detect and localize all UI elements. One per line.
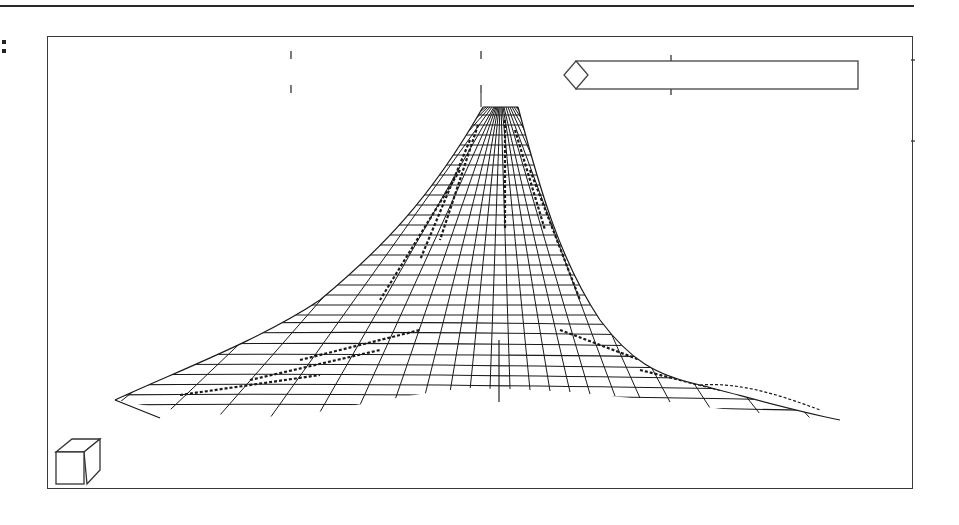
view-slider[interactable] (564, 61, 858, 89)
surface-plot[interactable] (0, 0, 959, 525)
slider-track[interactable] (576, 61, 858, 89)
view-cube-icon[interactable] (56, 439, 100, 484)
wireframe-mesh (100, 107, 900, 418)
surface-outline (115, 107, 840, 420)
